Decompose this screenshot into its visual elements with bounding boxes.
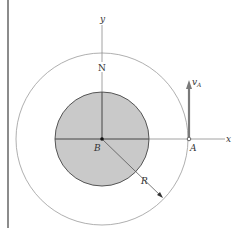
point-a: [187, 137, 191, 141]
side-bar: [7, 0, 9, 228]
velocity-label: vA: [192, 77, 202, 88]
y-axis-label: y: [99, 14, 106, 24]
radius-label: R: [140, 176, 148, 186]
center-label: B: [93, 143, 101, 153]
orbit-diagram: y N x B A R vA: [0, 0, 249, 235]
center-point: [100, 137, 104, 141]
x-axis-label: x: [226, 134, 231, 144]
north-label: N: [98, 63, 106, 73]
point-a-label: A: [189, 143, 197, 153]
